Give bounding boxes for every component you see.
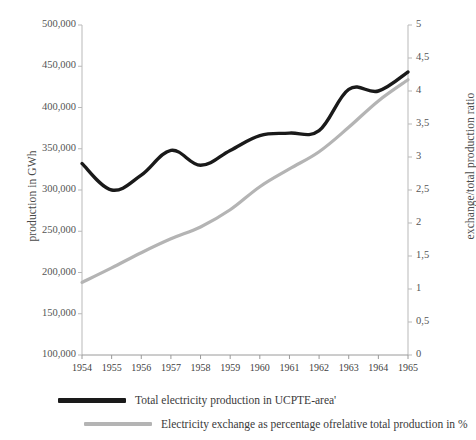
legend-swatch-gray-line <box>84 422 152 426</box>
legend-label-exchange: Electricity exchange as percentage ofrel… <box>161 418 468 430</box>
legend-label-production: Total electricity production in UCPTE-ar… <box>135 394 336 406</box>
legend-item-exchange: Electricity exchange as percentage ofrel… <box>58 412 468 436</box>
legend-item-production: Total electricity production in UCPTE-ar… <box>58 388 468 412</box>
legend-swatch-black-line <box>58 398 126 403</box>
chart-legend: Total electricity production in UCPTE-ar… <box>58 388 468 436</box>
series-line-production <box>82 72 408 190</box>
